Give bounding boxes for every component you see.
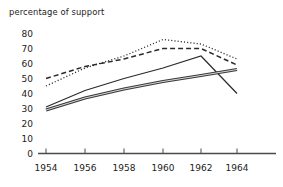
plot-area	[0, 0, 283, 187]
chart-container: percentage of support 80 70 60 50 40 30 …	[0, 0, 283, 187]
series-dotted	[46, 40, 237, 87]
series-solid-peaked	[46, 56, 237, 107]
series-solid-thick	[46, 70, 237, 111]
series-layer	[46, 40, 237, 111]
